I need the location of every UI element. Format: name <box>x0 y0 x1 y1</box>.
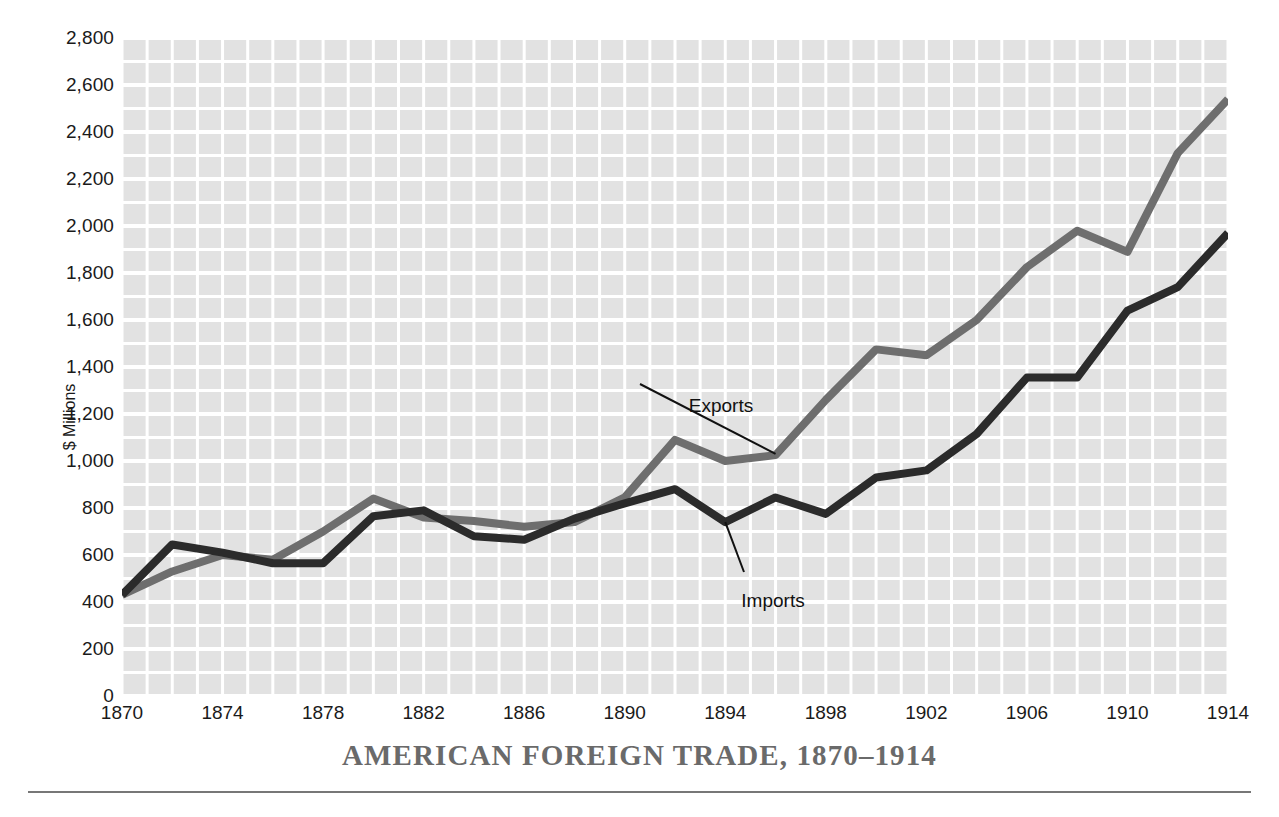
y-axis-tick-label: 2,200 <box>66 168 114 190</box>
plot-area <box>122 38 1228 696</box>
x-axis-tick-label: 1882 <box>402 702 444 724</box>
leader-line-imports <box>725 522 744 572</box>
x-axis-tick-label: 1878 <box>302 702 344 724</box>
imports-series-label: Imports <box>741 590 804 612</box>
x-axis-tick-label: 1906 <box>1006 702 1048 724</box>
x-axis-tick-label: 1898 <box>805 702 847 724</box>
y-axis-tick-label: 2,600 <box>66 74 114 96</box>
y-axis-tick-label: 800 <box>82 497 114 519</box>
exports-series-label: Exports <box>689 395 753 417</box>
y-axis-tick-label: 0 <box>103 685 114 707</box>
chart-footer: AMERICAN FOREIGN TRADE, 1870–1914 <box>0 735 1279 817</box>
x-axis-tick-label: 1890 <box>604 702 646 724</box>
y-axis-title: $ Millions <box>61 337 79 497</box>
x-axis-tick-label: 1894 <box>704 702 746 724</box>
y-axis-tick-label: 1,800 <box>66 262 114 284</box>
y-axis-tick-label: 600 <box>82 544 114 566</box>
y-axis-tick-label: 2,400 <box>66 121 114 143</box>
x-axis-tick-label: 1870 <box>101 702 143 724</box>
x-axis-tick-label: 1874 <box>201 702 243 724</box>
chart-figure: 02004006008001,0001,2001,4001,6001,8002,… <box>0 0 1279 817</box>
y-axis-tick-label: 400 <box>82 591 114 613</box>
x-axis-tick-label: 1902 <box>905 702 947 724</box>
x-axis-tick-label: 1886 <box>503 702 545 724</box>
footer-divider <box>28 791 1251 793</box>
y-axis-tick-label: 1,600 <box>66 309 114 331</box>
y-axis-tick-label: 2,800 <box>66 27 114 49</box>
x-axis-tick-label: 1914 <box>1207 702 1249 724</box>
x-axis-tick-label: 1910 <box>1106 702 1148 724</box>
y-axis-tick-label: 2,000 <box>66 215 114 237</box>
y-axis-tick-label: 200 <box>82 638 114 660</box>
chart-title: AMERICAN FOREIGN TRADE, 1870–1914 <box>0 739 1279 772</box>
annotation-leader-lines <box>122 38 1228 696</box>
